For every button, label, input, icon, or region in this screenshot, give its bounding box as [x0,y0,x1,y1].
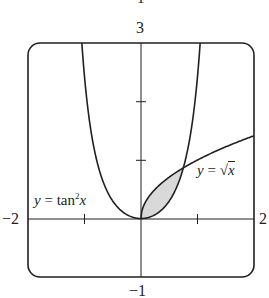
sqrt-label: y = √x [197,163,235,178]
x-min-label: −2 [2,211,19,227]
tan-label-y: y [34,192,41,208]
y-max-label: 3 [136,20,144,36]
x-max-label: 2 [259,211,267,227]
sqrt-label-eq: = [204,162,220,178]
shaded-region [141,168,183,219]
tan-label-eq: = tan [41,192,75,208]
tan-squared-label: y = tan2x [34,192,86,208]
sqrt-radical-icon: √ [220,162,228,178]
sqrt-label-y: y [197,162,204,178]
plot-area [0,0,269,298]
tan-label-x: x [79,192,86,208]
y-min-label: −1 [129,283,146,298]
cropped-top-label: 1 [137,0,145,6]
sqrt-label-x: x [228,161,235,178]
